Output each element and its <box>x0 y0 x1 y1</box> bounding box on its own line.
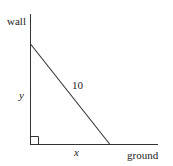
wall-label: wall <box>7 15 26 27</box>
ladder-hypotenuse-line <box>31 44 111 145</box>
height-y-label: y <box>18 89 24 101</box>
ground-label: ground <box>127 149 159 161</box>
base-x-label: x <box>73 146 79 158</box>
hypotenuse-length-label: 10 <box>72 79 84 91</box>
ladder-triangle-diagram: wall y 10 x ground <box>0 0 173 166</box>
right-angle-marker-icon <box>31 137 39 145</box>
